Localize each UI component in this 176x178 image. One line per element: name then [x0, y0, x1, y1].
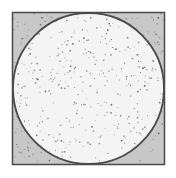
random-point — [42, 110, 43, 111]
random-point — [95, 120, 96, 121]
random-point — [109, 25, 111, 27]
random-point — [148, 83, 149, 84]
random-point — [68, 86, 69, 87]
random-point — [60, 80, 61, 81]
random-point — [162, 123, 164, 125]
random-point — [28, 120, 29, 121]
random-point — [22, 38, 24, 40]
random-point — [105, 54, 106, 55]
random-point — [104, 102, 105, 103]
random-point — [99, 136, 101, 138]
random-point — [55, 150, 56, 151]
random-point — [105, 76, 106, 77]
random-point — [74, 68, 75, 69]
random-point — [103, 73, 104, 74]
random-point — [41, 145, 42, 146]
random-point — [119, 51, 120, 52]
random-point — [140, 135, 141, 136]
random-point — [121, 68, 122, 69]
random-point — [90, 107, 91, 108]
random-point — [58, 48, 60, 50]
random-point — [26, 68, 27, 69]
random-point — [157, 42, 159, 44]
random-point — [162, 51, 164, 53]
random-point — [97, 90, 98, 91]
random-point — [151, 17, 153, 19]
random-point — [107, 153, 108, 154]
random-point — [146, 69, 147, 70]
random-point — [19, 152, 20, 153]
random-point — [16, 102, 17, 103]
random-point — [21, 87, 23, 89]
random-point — [40, 24, 42, 26]
random-point — [71, 36, 73, 38]
random-point — [52, 69, 53, 70]
random-point — [41, 152, 43, 154]
random-point — [95, 64, 96, 65]
random-point — [37, 79, 39, 81]
random-point — [36, 135, 38, 137]
random-point — [127, 46, 129, 48]
random-point — [126, 85, 127, 86]
random-point — [17, 93, 18, 94]
random-point — [18, 84, 20, 86]
random-point — [48, 19, 49, 20]
random-point — [81, 104, 82, 105]
random-point — [64, 57, 65, 58]
random-point — [153, 60, 155, 62]
random-point — [104, 115, 105, 116]
random-point — [66, 118, 67, 119]
random-point — [159, 37, 161, 39]
random-point — [26, 104, 28, 106]
random-point — [155, 115, 156, 116]
random-point — [61, 140, 63, 142]
random-point — [28, 142, 30, 144]
random-point — [93, 57, 94, 58]
random-point — [158, 133, 160, 135]
random-point — [87, 39, 89, 41]
random-point — [85, 104, 86, 105]
random-point — [87, 30, 88, 31]
random-point — [136, 132, 137, 133]
random-point — [32, 73, 33, 74]
random-point — [50, 93, 51, 94]
random-point — [36, 161, 37, 162]
random-point — [62, 156, 63, 157]
random-point — [155, 69, 157, 71]
random-point — [120, 115, 121, 116]
random-point — [110, 112, 112, 114]
random-point — [84, 42, 85, 43]
random-point — [36, 78, 38, 80]
random-point — [134, 143, 136, 145]
random-point — [126, 78, 127, 79]
random-point — [77, 110, 78, 111]
random-point — [43, 17, 44, 18]
random-point — [57, 55, 58, 56]
random-point — [46, 15, 47, 16]
random-point — [160, 93, 161, 94]
random-point — [73, 127, 74, 128]
random-point — [88, 51, 89, 52]
random-point — [30, 49, 31, 50]
random-point — [95, 158, 96, 159]
random-point — [14, 119, 15, 120]
random-point — [148, 40, 149, 41]
random-point — [99, 160, 100, 161]
random-point — [34, 70, 36, 72]
random-point — [48, 134, 50, 136]
random-point — [49, 151, 50, 152]
random-point — [112, 67, 113, 68]
random-point — [65, 82, 66, 83]
random-point — [160, 53, 161, 54]
random-point — [74, 87, 75, 88]
random-point — [159, 44, 160, 45]
random-point — [38, 160, 39, 161]
random-point — [124, 63, 125, 64]
random-point — [99, 74, 100, 75]
random-point — [26, 35, 27, 36]
random-point — [154, 42, 155, 43]
random-point — [129, 123, 130, 124]
random-point — [32, 43, 33, 44]
random-point — [28, 35, 29, 36]
random-point — [130, 85, 131, 86]
